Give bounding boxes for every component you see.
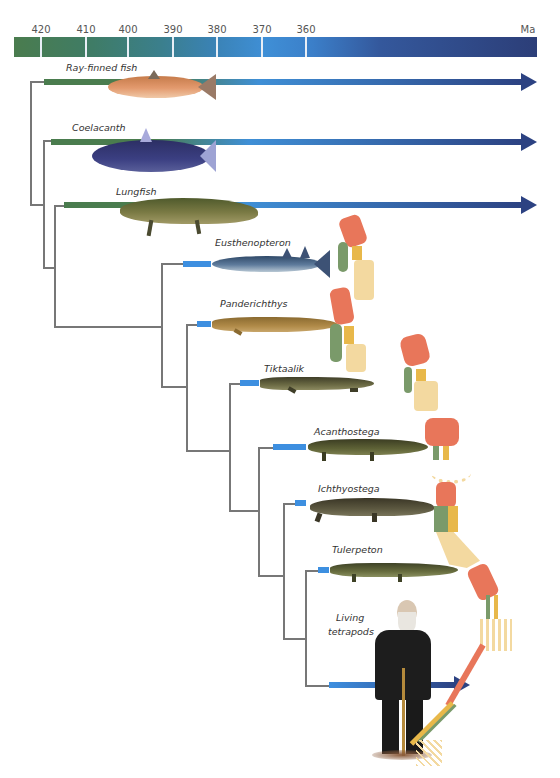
branch: [30, 81, 44, 83]
branch: [229, 510, 258, 512]
branch: [54, 205, 64, 207]
timeline-axis: 420 410 400 390 380 370 360 Ma: [0, 0, 560, 60]
tick-divider: [261, 37, 263, 57]
tick-divider: [172, 37, 174, 57]
label-coelacanth: Coelacanth: [72, 122, 126, 133]
branch: [30, 81, 32, 205]
branch: [305, 570, 307, 686]
unit-label: Ma: [521, 24, 536, 35]
label-living-tetrapods-line1: Living: [336, 612, 364, 623]
branch: [305, 570, 319, 572]
branch: [161, 263, 183, 265]
branch: [283, 638, 305, 640]
branch: [161, 263, 163, 387]
label-living-tetrapods-line2: tetrapods: [328, 626, 374, 637]
tick-divider: [305, 37, 307, 57]
branch: [186, 450, 230, 452]
tick-divider: [127, 37, 129, 57]
fossil-range-ichthyostega: [295, 500, 306, 506]
label-acanthostega: Acanthostega: [314, 426, 380, 437]
branch: [305, 685, 329, 687]
tick-divider: [40, 37, 42, 57]
branch: [54, 326, 162, 328]
fossil-range-tiktaalik: [240, 380, 259, 386]
fossil-range-acanthostega: [273, 444, 306, 450]
tick-divider: [85, 37, 87, 57]
branch: [54, 205, 56, 327]
label-eusthenopteron: Eusthenopteron: [215, 237, 291, 248]
branch: [258, 575, 284, 577]
branch: [186, 324, 188, 451]
branch: [283, 503, 295, 505]
timeline-bar: [14, 37, 537, 57]
branch: [258, 447, 260, 576]
fossil-range-panderichthys: [197, 321, 211, 327]
arrow-head-icon: [521, 196, 537, 214]
fossil-range-eusthenopteron: [183, 261, 211, 267]
tick-label: 390: [163, 24, 182, 35]
tick-label: 420: [31, 24, 50, 35]
branch: [43, 140, 51, 142]
branch: [30, 204, 44, 206]
arrow-head-icon: [521, 73, 537, 91]
label-ray-finned-fish: Ray-finned fish: [66, 62, 137, 73]
branch: [229, 383, 231, 511]
tick-label: 410: [76, 24, 95, 35]
tick-label: 370: [252, 24, 271, 35]
label-panderichthys: Panderichthys: [220, 298, 288, 309]
branch: [161, 386, 186, 388]
tick-label: 360: [296, 24, 315, 35]
branch: [283, 503, 285, 639]
branch: [258, 447, 274, 449]
tick-divider: [216, 37, 218, 57]
label-ichthyostega: Ichthyostega: [318, 483, 380, 494]
label-lungfish: Lungfish: [116, 186, 156, 197]
tick-label: 380: [207, 24, 226, 35]
fossil-range-tulerpeton: [318, 567, 329, 573]
label-tulerpeton: Tulerpeton: [332, 544, 383, 555]
label-tiktaalik: Tiktaalik: [264, 363, 304, 374]
branch: [43, 140, 45, 268]
arrow-head-icon: [521, 133, 537, 151]
tick-label: 400: [118, 24, 137, 35]
